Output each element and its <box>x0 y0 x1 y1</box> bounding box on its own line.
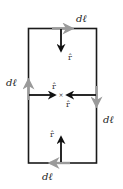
rhat-label-left: r̂ <box>52 82 56 91</box>
dl-label-right: dℓ <box>103 114 114 125</box>
dl-label-bottom: dℓ <box>42 171 53 182</box>
dl-label-left: dℓ <box>6 77 17 88</box>
current-loop-diagram: × dℓ dℓ dℓ dℓ r̂ r̂ r̂ r̂ <box>0 0 123 189</box>
rhat-label-right: r̂ <box>66 100 70 109</box>
dl-label-top: dℓ <box>76 13 87 24</box>
rhat-label-bottom: r̂ <box>50 130 54 139</box>
center-mark: × <box>58 91 63 98</box>
rhat-label-top: r̂ <box>68 53 72 62</box>
